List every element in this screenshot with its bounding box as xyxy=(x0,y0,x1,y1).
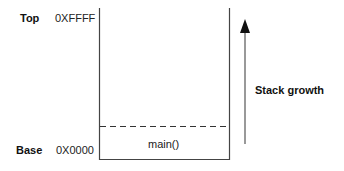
stack-frame-main: main() xyxy=(148,138,179,150)
growth-arrow-head-icon xyxy=(240,19,250,33)
base-address: 0X0000 xyxy=(56,144,94,156)
base-label: Base xyxy=(16,144,42,156)
top-address: 0XFFFF xyxy=(55,12,95,24)
stack-growth-label: Stack growth xyxy=(255,84,324,96)
top-label: Top xyxy=(20,12,39,24)
